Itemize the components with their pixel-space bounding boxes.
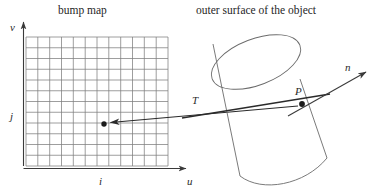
- bump-map-axes: [24, 22, 187, 169]
- surface-point-marker: [299, 101, 305, 107]
- j-axis-label: j: [10, 111, 13, 122]
- texel-point-marker: [101, 121, 106, 126]
- tangent-line: [182, 94, 330, 118]
- bump-map-grid: [26, 37, 168, 166]
- i-axis-label: i: [99, 176, 102, 187]
- point-p-label: P: [295, 86, 302, 97]
- cylinder-left-edge: [213, 44, 240, 176]
- cylinder-bottom-arc: [240, 158, 327, 185]
- cylinder-right-edge: [300, 79, 327, 158]
- tangent-label: T: [192, 95, 198, 106]
- bump-map-title: bump map: [58, 5, 107, 17]
- normal-label: n: [345, 62, 351, 73]
- cylinder-top-ellipse: [204, 24, 308, 101]
- u-axis-label: u: [187, 176, 193, 187]
- v-axis-label: v: [10, 22, 15, 33]
- outer-surface-title: outer surface of the object: [196, 5, 316, 17]
- diagram-canvas: [0, 0, 377, 195]
- bump-mapping-diagram: bump map outer surface of the object v j…: [0, 0, 377, 195]
